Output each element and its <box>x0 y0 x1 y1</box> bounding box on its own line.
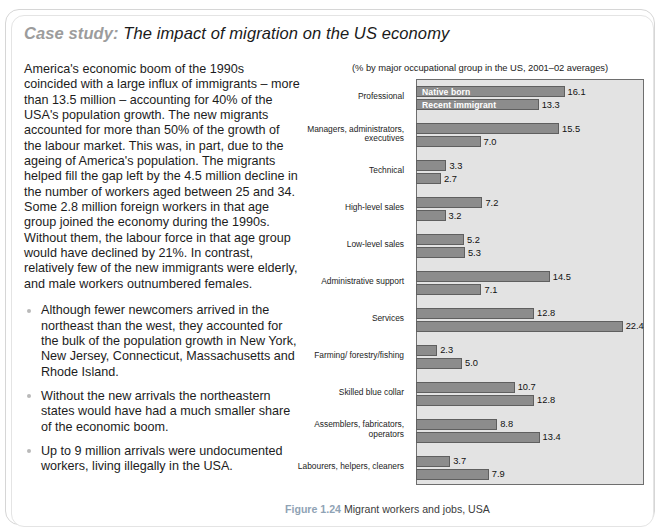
chart-body: ProfessionalManagers, administrators, ex… <box>352 79 644 485</box>
chart-category-label: Technical <box>284 166 404 176</box>
chart-bar: 13.4 <box>416 432 540 443</box>
chart-bar: 7.2 <box>416 197 482 208</box>
chart-value-label: 5.0 <box>465 358 478 368</box>
chart-subtitle: (% by major occupational group in the US… <box>352 62 644 73</box>
chart-bar: 3.2 <box>416 210 446 221</box>
figure-caption: Figure 1.24 Migrant workers and jobs, US… <box>285 503 490 515</box>
chart-category-label: Farming/ forestry/fishing <box>284 351 404 361</box>
intro-paragraph: America's economic boom of the 1990s coi… <box>24 62 300 292</box>
bar-chart: (% by major occupational group in the US… <box>352 62 644 485</box>
chart-bar: 15.5 <box>416 123 559 134</box>
chart-bar: 10.7 <box>416 382 515 393</box>
chart-category-label: Services <box>284 314 404 324</box>
bullet-list: Although fewer newcomers arrived in the … <box>24 303 300 474</box>
chart-category-label: Labourers, helpers, cleaners <box>284 462 404 472</box>
chart-value-label: 3.2 <box>449 211 462 221</box>
chart-bar: 12.8 <box>416 395 534 406</box>
figure-number: Figure 1.24 <box>285 503 341 515</box>
list-item: Although fewer newcomers arrived in the … <box>24 303 300 380</box>
chart-value-label: 14.5 <box>553 272 571 282</box>
chart-value-label: 5.2 <box>467 235 480 245</box>
article-text-column: America's economic boom of the 1990s coi… <box>24 62 300 484</box>
chart-value-label: 15.5 <box>562 124 580 134</box>
list-item-text: Although fewer newcomers arrived in the … <box>41 303 297 378</box>
chart-category-label: Professional <box>284 92 404 102</box>
chart-bar: 7.9 <box>416 469 489 480</box>
page-title: Case study: The impact of migration on t… <box>24 24 624 43</box>
chart-value-label: 2.7 <box>444 174 457 184</box>
bullet-dot-icon <box>27 309 31 313</box>
chart-bar: 5.0 <box>416 358 462 369</box>
list-item-text: Without the new arrivals the northeaster… <box>41 389 290 434</box>
chart-value-label: 2.3 <box>440 345 453 355</box>
chart-bar: 7.0 <box>416 136 481 147</box>
chart-value-label: 5.3 <box>468 248 481 258</box>
chart-value-label: 10.7 <box>518 382 536 392</box>
case-study-content: Case study: The impact of migration on t… <box>0 0 662 529</box>
chart-bar: 12.8 <box>416 308 534 319</box>
chart-value-label: 13.3 <box>542 100 560 110</box>
chart-legend-label: Native born <box>422 87 470 97</box>
chart-category-label: Skilled blue collar <box>284 388 404 398</box>
figure-caption-text: Migrant workers and jobs, USA <box>344 503 490 515</box>
chart-value-label: 7.2 <box>485 198 498 208</box>
chart-bar: 5.3 <box>416 247 465 258</box>
chart-category-label: Assemblers, fabricators, operators <box>284 420 404 439</box>
chart-category-label: Low-level sales <box>284 240 404 250</box>
chart-category-label: High-level sales <box>284 203 404 213</box>
chart-value-label: 22.4 <box>626 321 644 331</box>
list-item-text: Up to 9 million arrivals were undocument… <box>41 444 283 473</box>
chart-value-label: 12.8 <box>537 308 555 318</box>
list-item: Up to 9 million arrivals were undocument… <box>24 444 300 475</box>
chart-value-label: 12.8 <box>537 395 555 405</box>
list-item: Without the new arrivals the northeaster… <box>24 389 300 435</box>
chart-value-label: 7.1 <box>484 285 497 295</box>
chart-bar: 5.2 <box>416 234 464 245</box>
chart-bar: 7.1 <box>416 284 481 295</box>
chart-bar: Native born16.1 <box>416 86 565 97</box>
bullet-dot-icon <box>27 449 31 453</box>
chart-bar: 14.5 <box>416 271 550 282</box>
chart-bar: 3.3 <box>416 160 446 171</box>
chart-value-label: 3.7 <box>453 456 466 466</box>
chart-bar: 2.7 <box>416 173 441 184</box>
chart-legend-label: Recent immigrant <box>422 100 496 110</box>
chart-value-label: 16.1 <box>568 87 586 97</box>
chart-value-label: 3.3 <box>449 161 462 171</box>
chart-bar: 2.3 <box>416 345 437 356</box>
chart-value-label: 7.0 <box>484 137 497 147</box>
chart-bar: 3.7 <box>416 456 450 467</box>
chart-value-label: 7.9 <box>492 469 505 479</box>
chart-plot-area: Native born16.1Recent immigrant13.315.57… <box>416 79 644 485</box>
chart-value-label: 13.4 <box>543 432 561 442</box>
case-study-title: The impact of migration on the US econom… <box>123 24 449 42</box>
chart-bar: Recent immigrant13.3 <box>416 99 539 110</box>
chart-bar: 8.8 <box>416 419 497 430</box>
case-study-label: Case study: <box>24 24 119 42</box>
chart-bar: 22.4 <box>416 321 623 332</box>
bullet-dot-icon <box>27 394 31 398</box>
chart-value-label: 8.8 <box>500 419 513 429</box>
chart-category-axis: ProfessionalManagers, administrators, ex… <box>352 79 410 485</box>
chart-category-label: Administrative support <box>284 277 404 287</box>
chart-category-label: Managers, administrators, executives <box>284 125 404 144</box>
